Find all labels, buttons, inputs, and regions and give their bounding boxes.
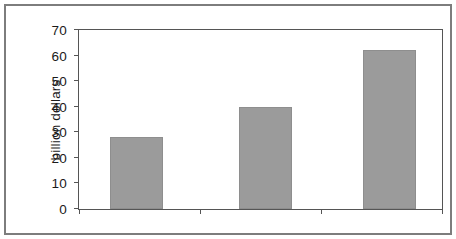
x-tick-separator-3 bbox=[321, 209, 322, 214]
y-tick-label-30: 30 bbox=[52, 125, 67, 140]
bar-2001-2010 bbox=[110, 137, 163, 209]
y-tick-50: 50 bbox=[74, 80, 79, 81]
y-tick-label-20: 20 bbox=[52, 150, 67, 165]
y-tick-10: 10 bbox=[74, 182, 79, 183]
bar-2021-2030 bbox=[363, 50, 416, 209]
y-tick-label-50: 50 bbox=[52, 74, 67, 89]
x-tick-separator-2 bbox=[200, 209, 201, 214]
y-tick-20: 20 bbox=[74, 157, 79, 158]
y-tick-30: 30 bbox=[74, 131, 79, 132]
y-tick-60: 60 bbox=[74, 55, 79, 56]
y-tick-label-40: 40 bbox=[52, 99, 67, 114]
y-tick-label-70: 70 bbox=[52, 23, 67, 38]
y-tick-label-0: 0 bbox=[59, 202, 67, 217]
y-tick-label-60: 60 bbox=[52, 48, 67, 63]
x-tick-separator-4 bbox=[442, 209, 443, 214]
y-tick-label-10: 10 bbox=[52, 176, 67, 191]
x-tick-separator-1 bbox=[79, 209, 80, 214]
y-axis-title: billion dollars bbox=[48, 79, 63, 160]
bar-2011-2020 bbox=[239, 107, 292, 209]
bar-chart-figure: billion dollars 0 10 20 30 40 50 60 bbox=[0, 0, 456, 239]
plot-area: 0 10 20 30 40 50 60 70 bbox=[78, 29, 443, 210]
y-tick-40: 40 bbox=[74, 106, 79, 107]
y-tick-70: 70 bbox=[74, 29, 79, 30]
figure-frame: billion dollars 0 10 20 30 40 50 60 bbox=[4, 4, 452, 235]
